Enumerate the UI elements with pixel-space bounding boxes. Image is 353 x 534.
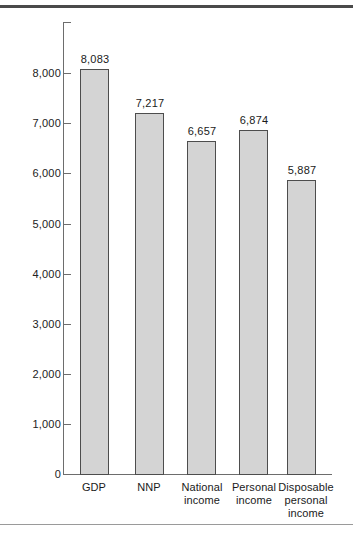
x-label-disposable-personal-income-line-1: Disposable — [274, 481, 338, 494]
y-tick-8000 — [64, 73, 71, 74]
y-tick-label-8000: 8,000 — [1, 68, 61, 79]
y-tick-3000 — [64, 324, 71, 325]
x-label-national-income-line-1: National — [173, 481, 231, 494]
y-tick-label-2000: 2,000 — [1, 369, 61, 380]
y-tick-4000 — [64, 274, 71, 275]
bar-chart: 8,000 7,000 6,000 5,000 4,000 3,000 2,00… — [0, 0, 353, 534]
bar-value-national-income: 6,657 — [176, 126, 228, 137]
x-label-disposable-personal-income: Disposable personal income — [274, 481, 338, 520]
x-label-gdp-line-1: GDP — [68, 481, 120, 494]
bar-nnp — [135, 113, 164, 475]
y-tick-label-3000: 3,000 — [1, 319, 61, 330]
x-label-national-income: National income — [173, 481, 231, 507]
x-label-nnp-line-1: NNP — [123, 481, 175, 494]
y-tick-7000 — [64, 123, 71, 124]
bar-value-gdp: 8,083 — [69, 54, 121, 65]
y-tick-2000 — [64, 374, 71, 375]
bar-disposable-personal-income — [287, 180, 316, 475]
x-label-disposable-personal-income-line-2: personal — [274, 494, 338, 507]
x-label-disposable-personal-income-line-3: income — [274, 507, 338, 520]
y-tick-6000 — [64, 173, 71, 174]
y-tick-label-5000: 5,000 — [1, 219, 61, 230]
y-tick-0 — [64, 474, 71, 475]
bar-value-disposable-personal-income: 5,887 — [276, 165, 328, 176]
y-axis-line — [63, 22, 64, 474]
y-axis-top-cap — [63, 22, 71, 23]
y-tick-label-0: 0 — [1, 469, 61, 480]
x-label-gdp: GDP — [68, 481, 120, 494]
bar-value-nnp: 7,217 — [124, 98, 176, 109]
bottom-divider-rule — [0, 524, 353, 525]
bar-national-income — [187, 141, 216, 475]
bar-personal-income — [239, 130, 268, 475]
x-label-nnp: NNP — [123, 481, 175, 494]
y-tick-label-4000: 4,000 — [1, 269, 61, 280]
y-tick-label-7000: 7,000 — [1, 118, 61, 129]
y-tick-1000 — [64, 424, 71, 425]
bar-value-personal-income: 6,874 — [228, 115, 280, 126]
x-label-national-income-line-2: income — [173, 494, 231, 507]
y-tick-label-6000: 6,000 — [1, 168, 61, 179]
y-tick-5000 — [64, 224, 71, 225]
y-tick-label-1000: 1,000 — [1, 419, 61, 430]
bar-gdp — [80, 69, 109, 475]
